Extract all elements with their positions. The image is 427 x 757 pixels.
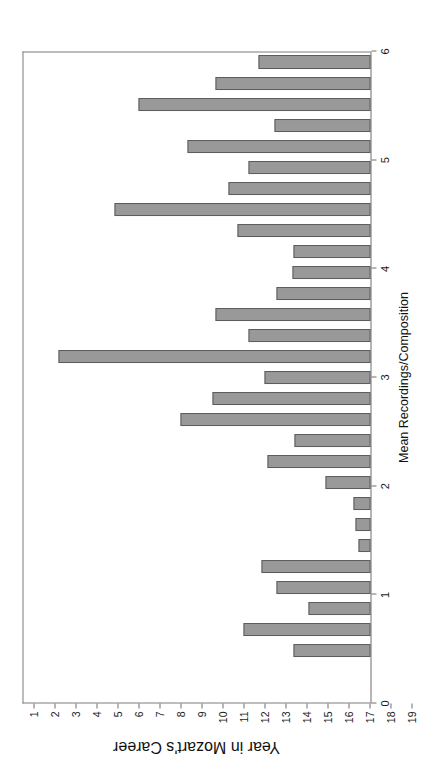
value-axis-tick-label: 2: [378, 483, 390, 489]
bar-slot: [22, 114, 370, 135]
bar: [180, 413, 370, 426]
category-axis-tick: [369, 703, 370, 708]
bar: [215, 76, 370, 89]
value-axis-tick: [371, 485, 376, 486]
category-axis-tick: [201, 703, 202, 708]
category-axis-tick: [117, 703, 118, 708]
bar: [325, 476, 370, 489]
category-axis-tick-label: 16: [342, 711, 354, 723]
category-axis-tick-label: 11: [237, 711, 249, 722]
category-axis-title-text: Year in Mozart's Career: [113, 738, 280, 756]
bar-slot: [22, 451, 370, 472]
bar: [215, 307, 370, 320]
category-axis-tick-label: 13: [279, 711, 291, 723]
category-axis-tick-label: 3: [69, 711, 81, 717]
bar: [228, 181, 370, 194]
bar: [248, 328, 370, 341]
category-axis-tick-label: 7: [153, 711, 165, 717]
bar-slot: [22, 282, 370, 303]
category-axis-tick: [138, 703, 139, 708]
category-axis-tick: [411, 703, 412, 708]
category-axis-tick-label: 2: [48, 711, 60, 717]
category-axis-tick-label: 5: [111, 711, 123, 717]
bar-slot: [22, 430, 370, 451]
category-axis-tick: [180, 703, 181, 708]
bar-slot: [22, 388, 370, 409]
category-axis-tick: [243, 703, 244, 708]
bar-slot: [22, 303, 370, 324]
bar-slot: [22, 535, 370, 556]
bar-slot: [22, 472, 370, 493]
category-axis-title: Year in Mozart's Career: [22, 737, 370, 757]
bar: [258, 55, 370, 68]
category-axis-tick-label: 1: [27, 711, 39, 717]
chart-canvas: 0123456 12345678910111213141516171819202…: [0, 0, 427, 757]
bar: [294, 434, 370, 447]
category-axis-tick: [222, 703, 223, 708]
bar-slot: [22, 682, 370, 703]
bar: [58, 349, 370, 362]
category-axis-tick: [390, 703, 391, 708]
value-axis-tick: [371, 159, 376, 160]
value-axis-tick: [371, 702, 376, 703]
category-axis-tick: [285, 703, 286, 708]
bar: [276, 581, 370, 594]
category-axis-tick-label: 17: [363, 711, 375, 723]
bar-slot: [22, 324, 370, 345]
category-axis-tick: [96, 703, 97, 708]
category-axis-tick: [348, 703, 349, 708]
value-axis-tick: [371, 593, 376, 594]
value-axis-tick-label: 1: [378, 591, 390, 597]
category-axis-tick-label: 10: [216, 711, 228, 723]
bar-slot: [22, 156, 370, 177]
value-axis-tick: [371, 50, 376, 51]
bar-slot: [22, 367, 370, 388]
bar-slot: [22, 493, 370, 514]
bar-slot: [22, 198, 370, 219]
value-axis-tick-label: 4: [378, 265, 390, 271]
value-axis-tick-label: 0: [378, 700, 390, 706]
category-axis-tick-label: 8: [174, 711, 186, 717]
category-axis-tick: [264, 703, 265, 708]
bar-slot: [22, 556, 370, 577]
category-axis-tick-label: 19: [405, 711, 417, 723]
bar-slot: [22, 240, 370, 261]
bar-slot: [22, 72, 370, 93]
bar: [358, 539, 370, 552]
bar-slot: [22, 51, 370, 72]
category-axis-tick-label: 18: [384, 711, 396, 723]
bar-slot: [22, 409, 370, 430]
value-axis-tick: [371, 267, 376, 268]
category-axis-tick: [327, 703, 328, 708]
bar: [138, 97, 370, 110]
bar-slot: [22, 345, 370, 366]
category-axis-tick-label: 12: [258, 711, 270, 723]
category-axis-tick: [75, 703, 76, 708]
bar: [114, 202, 370, 215]
category-axis-tick-label: 6: [132, 711, 144, 717]
value-axis-tick-label: 3: [378, 374, 390, 380]
bar: [264, 371, 370, 384]
value-axis-tick: [371, 376, 376, 377]
bar-slot: [22, 261, 370, 282]
category-axis-tick: [33, 703, 34, 708]
bar-slot: [22, 219, 370, 240]
bar-slot: [22, 93, 370, 114]
bars-area: [22, 51, 370, 703]
bar-slot: [22, 640, 370, 661]
bar: [276, 286, 370, 299]
bar: [243, 623, 370, 636]
bar: [293, 644, 370, 657]
chart-figure: 0123456 12345678910111213141516171819202…: [0, 0, 427, 757]
bar: [355, 518, 370, 531]
bar-slot: [22, 619, 370, 640]
bar: [212, 392, 370, 405]
bar: [267, 455, 370, 468]
category-axis-tick: [54, 703, 55, 708]
category-axis-tick: [159, 703, 160, 708]
category-axis-tick-label: 4: [90, 711, 102, 717]
bar-slot: [22, 177, 370, 198]
category-axis-tick: [306, 703, 307, 708]
bar: [187, 139, 370, 152]
bar-slot: [22, 598, 370, 619]
